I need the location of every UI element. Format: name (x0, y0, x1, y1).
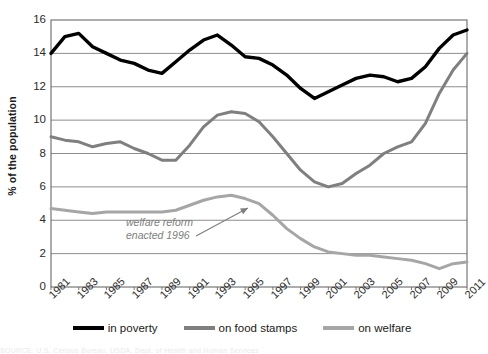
x-tick-label: 1997 (269, 276, 294, 301)
legend-item-on-food-stamps[interactable]: on food stamps (184, 322, 298, 334)
x-tick-label: 2007 (408, 276, 433, 301)
x-tick-label: 1989 (158, 276, 183, 301)
x-tick-label: 1999 (297, 276, 322, 301)
x-tick-label: 1981 (47, 276, 72, 301)
chart-annotation: welfare reform enacted 1996 (126, 216, 193, 243)
faint-source-caption: SOURCE: U.S. Census Bureau, USDA, Dept. … (0, 347, 484, 354)
legend-swatch (323, 326, 354, 330)
legend-item-on-welfare[interactable]: on welfare (323, 322, 411, 334)
chart-legend: in povertyon food stampson welfare (0, 322, 484, 334)
legend-label: on food stamps (219, 322, 298, 334)
x-tick-label: 1993 (213, 276, 238, 301)
x-tick-label: 1991 (186, 276, 211, 301)
x-tick-label: 1987 (130, 276, 155, 301)
x-tick-label: 1983 (75, 276, 100, 301)
x-tick-label: 2001 (324, 276, 349, 301)
x-tick-label: 2009 (435, 276, 460, 301)
legend-label: on welfare (358, 322, 411, 334)
legend-swatch (184, 326, 215, 330)
legend-item-in-poverty[interactable]: in poverty (73, 322, 158, 334)
x-tick-label: 2005 (380, 276, 405, 301)
x-tick-label: 2011 (463, 276, 488, 301)
x-tick-label: 1995 (241, 276, 266, 301)
legend-swatch (73, 326, 104, 331)
legend-label: in poverty (108, 322, 158, 334)
x-tick-label: 1985 (102, 276, 127, 301)
x-tick-label: 2003 (352, 276, 377, 301)
